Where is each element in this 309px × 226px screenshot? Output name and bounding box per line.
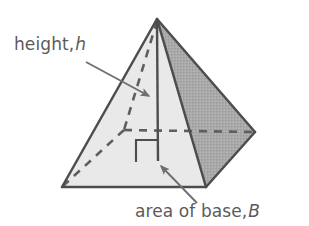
height-label: height,h xyxy=(14,36,86,53)
height-label-variable: h xyxy=(74,34,86,54)
area-of-base-label: area of base,B xyxy=(135,203,260,220)
pyramid-figure: height,h area of base,B xyxy=(0,0,309,226)
height-label-text: height, xyxy=(14,34,74,54)
base-label-variable: B xyxy=(247,201,260,221)
base-label-text: area of base, xyxy=(135,201,247,221)
